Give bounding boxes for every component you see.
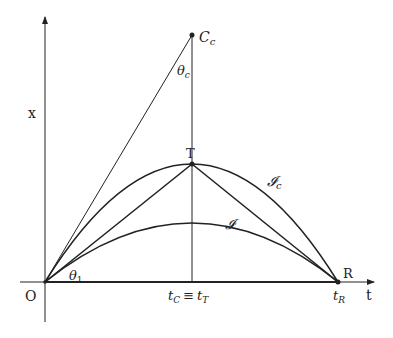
line-o-to-cc [45, 35, 192, 282]
tc-equiv-tt-label: tC≡tT [168, 288, 209, 305]
t-point-label: T [186, 146, 195, 161]
theta-c-label: θc [177, 63, 190, 80]
worldline-diagram: x t O Cc θc T 𝓘c 𝓘 θ1 R tC≡tT tR [0, 0, 393, 338]
point-o [43, 280, 47, 284]
t-axis-label: t [366, 287, 372, 303]
cc-label: Cc [199, 29, 216, 47]
origin-label: O [25, 288, 36, 304]
curve-i-label: 𝓘 [225, 216, 239, 232]
point-cc [190, 33, 195, 38]
r-point-label: R [343, 266, 354, 281]
tr-label: tR [333, 288, 345, 305]
point-t [190, 162, 195, 167]
x-axis-label: x [28, 105, 36, 121]
line-o-to-t [45, 164, 192, 282]
curve-ic-label: 𝓘c [267, 173, 282, 191]
theta-1-label: θ1 [69, 268, 83, 285]
point-r [336, 280, 341, 285]
line-t-to-r [192, 164, 338, 282]
